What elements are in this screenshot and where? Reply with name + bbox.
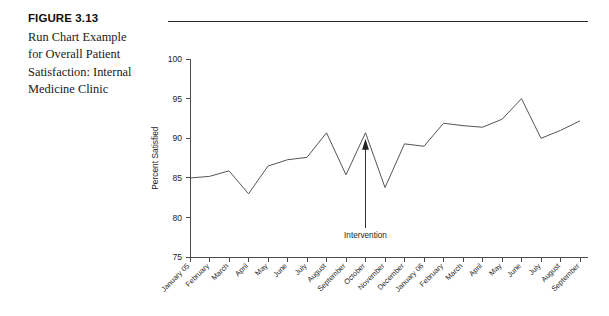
x-axis-tick-label: June (505, 261, 523, 279)
run-chart: 7580859095100 January 05FebruaryMarchApr… (0, 0, 609, 316)
x-axis-tick-label: July (293, 261, 309, 277)
figure-page: FIGURE 3.13 Run Chart Example for Overal… (0, 0, 609, 316)
y-axis: 7580859095100 (168, 54, 190, 262)
x-axis: January 05FebruaryMarchAprilMayJuneJulyA… (159, 257, 588, 293)
x-axis-tick-label: May (487, 261, 503, 277)
x-axis-tick-label: March (444, 261, 465, 282)
y-axis-tick-label: 95 (172, 94, 182, 104)
x-axis-tick-label: March (210, 261, 231, 282)
x-axis-tick-label: April (233, 261, 250, 278)
data-series-line (190, 99, 580, 194)
x-axis-tick-label: June (271, 261, 289, 279)
y-axis-title: Percent Satisfied (150, 126, 160, 190)
x-axis-tick-label: April (467, 261, 484, 278)
y-axis-title-label: Percent Satisfied (150, 126, 160, 190)
data-series-polyline (190, 99, 580, 194)
intervention-label: Intervention (344, 231, 387, 240)
y-axis-tick-label: 85 (172, 173, 182, 183)
x-axis-tick-label: July (527, 261, 543, 277)
intervention-annotation: Intervention (344, 139, 387, 240)
y-axis-tick-label: 80 (172, 213, 182, 223)
y-axis-tick-label: 75 (172, 252, 182, 262)
x-axis-tick-label: May (253, 261, 269, 277)
y-axis-tick-label: 90 (172, 133, 182, 143)
y-axis-tick-label: 100 (168, 54, 183, 64)
x-axis-tick-label: January 05 (159, 261, 191, 293)
